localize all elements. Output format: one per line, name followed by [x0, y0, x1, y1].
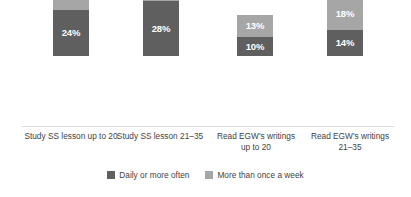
bar-segment-more-than-once-a-week[interactable]: 22% [53, 0, 89, 10]
legend-label: More than once a week [217, 170, 303, 180]
bar-segment-more-than-once-a-week[interactable]: 13% [237, 15, 273, 37]
category-label-read-egw-writings-up-to-20: Read EGW's writings up to 20 [206, 131, 306, 153]
bar-value-label: 18% [336, 9, 355, 19]
bar-value-label: 14% [336, 38, 355, 48]
bar-segment-daily-or-more-often[interactable]: 28% [143, 1, 179, 56]
bar-group[interactable]: 13% 10% [237, 15, 273, 56]
bar-group[interactable]: 29% 28% [143, 0, 179, 56]
legend-swatch-icon [107, 171, 115, 179]
bar-segment-daily-or-more-often[interactable]: 24% [53, 10, 89, 56]
chart-legend: Daily or more often More than once a wee… [0, 170, 411, 180]
legend-item-more-than-once-a-week[interactable]: More than once a week [205, 170, 303, 180]
legend-swatch-icon [205, 171, 213, 179]
bar-group[interactable]: 22% 24% [53, 0, 89, 56]
bar-value-label: 28% [152, 24, 171, 34]
bar-value-label: 13% [246, 21, 265, 31]
bar-value-label: 24% [62, 28, 81, 38]
bar-value-label: 10% [246, 42, 265, 52]
legend-label: Daily or more often [119, 170, 189, 180]
bar-segment-daily-or-more-often[interactable]: 10% [237, 37, 273, 56]
plot-area: 22% 24% 29% 28% 13% 10% [0, 0, 411, 127]
category-label-read-egw-writings-21-35: Read EGW's writings 21–35 [300, 131, 400, 153]
legend-item-daily-or-more-often[interactable]: Daily or more often [107, 170, 189, 180]
bar-segment-more-than-once-a-week[interactable]: 18% [327, 0, 363, 30]
bar-segment-daily-or-more-often[interactable]: 14% [327, 30, 363, 56]
bar-group[interactable]: 18% 14% [327, 0, 363, 56]
category-axis-line [22, 126, 394, 127]
stacked-bar-chart: 22% 24% 29% 28% 13% 10% [0, 0, 411, 197]
category-label-study-ss-lesson-21-35: Study SS lesson 21–35 [110, 131, 210, 142]
